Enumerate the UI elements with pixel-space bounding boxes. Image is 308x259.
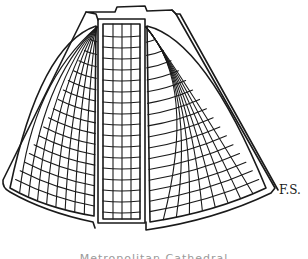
artist-signature: F.S. <box>279 183 301 197</box>
right-fan-grid <box>146 27 259 220</box>
cathedral-sketch <box>0 0 308 259</box>
caption: Metropolitan Cathedral <box>0 250 308 259</box>
central-grid <box>103 24 140 219</box>
